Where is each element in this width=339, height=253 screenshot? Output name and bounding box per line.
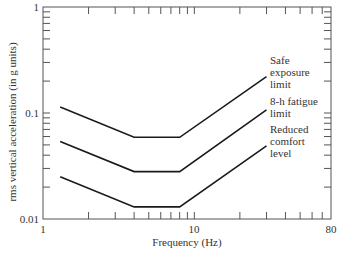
x-tick-label-10: 10 (189, 223, 201, 235)
x-tick-label-1: 1 (40, 223, 46, 235)
x-axis-title: Frequency (Hz) (152, 236, 222, 249)
series-line-2 (60, 146, 266, 207)
y-tick-label-0.1: 0.1 (25, 107, 39, 119)
series-line-0 (60, 77, 266, 138)
series-label-2: Reduced (270, 123, 309, 135)
series-label-2: comfort (270, 135, 305, 147)
series-label-1: limit (270, 107, 291, 119)
chart: Safeexposurelimit8-h fatiguelimitReduced… (0, 0, 339, 253)
y-tick-label-0.01: 0.01 (20, 213, 39, 225)
series-label-2: level (270, 147, 291, 159)
y-axis-title: rms vertical acceleration (in g units) (6, 42, 19, 201)
series-label-0: Safe (270, 54, 290, 66)
series-label-0: exposure (270, 66, 310, 78)
series-label-0: limit (270, 78, 291, 90)
y-tick-label-1: 1 (34, 1, 40, 13)
series-labels: Safeexposurelimit8-h fatiguelimitReduced… (270, 54, 318, 159)
series-label-1: 8-h fatigue (270, 95, 318, 107)
x-tick-label-80: 80 (326, 223, 338, 235)
series-lines (60, 77, 266, 207)
